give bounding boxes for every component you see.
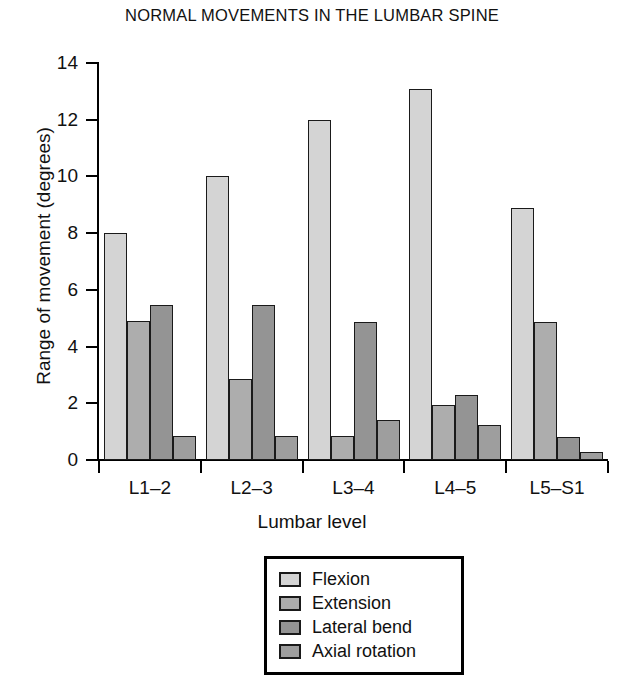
legend-swatch-axial-rotation	[279, 644, 301, 659]
legend-swatch-lateral-bend	[279, 620, 301, 635]
bar-axial-rotation-l4-5	[478, 425, 501, 460]
x-axis-tick	[607, 461, 609, 473]
y-axis-tick	[86, 402, 97, 404]
y-axis-tick-label-wrap: 14	[42, 53, 78, 72]
bar-flexion-l5-s1	[511, 208, 534, 460]
bar-flexion-l1-2	[104, 233, 127, 460]
bar-axial-rotation-l2-3	[275, 436, 298, 460]
x-axis-title: Lumbar level	[0, 511, 624, 533]
x-axis-tick-label: L5–S1	[497, 477, 617, 499]
legend-item-extension[interactable]: Extension	[279, 591, 451, 615]
bar-lateral-bend-l2-3	[252, 305, 275, 460]
y-axis-tick	[86, 459, 97, 461]
bar-flexion-l2-3	[206, 176, 229, 460]
bar-axial-rotation-l3-4	[377, 420, 400, 460]
bar-lateral-bend-l5-s1	[557, 437, 580, 460]
bar-flexion-l4-5	[409, 89, 432, 460]
chart-title: NORMAL MOVEMENTS IN THE LUMBAR SPINE	[0, 6, 624, 25]
bar-extension-l1-2	[127, 321, 150, 460]
legend-item-label: Axial rotation	[312, 642, 416, 660]
x-axis-tick	[98, 461, 100, 473]
chart-legend: FlexionExtensionLateral bendAxial rotati…	[264, 556, 464, 675]
y-axis-tick	[86, 119, 97, 121]
bar-flexion-l3-4	[308, 120, 331, 460]
bar-extension-l4-5	[432, 405, 455, 460]
bar-lateral-bend-l4-5	[455, 395, 478, 460]
x-axis-tick	[505, 461, 507, 473]
legend-item-lateral-bend[interactable]: Lateral bend	[279, 615, 451, 639]
bar-axial-rotation-l5-s1	[580, 452, 603, 461]
bar-extension-l2-3	[229, 379, 252, 460]
y-axis-tick	[86, 232, 97, 234]
legend-item-axial-rotation[interactable]: Axial rotation	[279, 639, 451, 663]
y-axis-tick	[86, 289, 97, 291]
y-axis-tick	[86, 175, 97, 177]
y-axis-tick	[86, 346, 97, 348]
bar-extension-l5-s1	[534, 322, 557, 460]
legend-swatch-extension	[279, 596, 301, 611]
x-axis-tick	[200, 461, 202, 473]
bar-axial-rotation-l1-2	[173, 436, 196, 460]
legend-item-label: Lateral bend	[312, 618, 412, 636]
legend-item-label: Extension	[312, 594, 391, 612]
y-axis-tick-label: 0	[42, 450, 78, 469]
legend-swatch-flexion	[279, 572, 301, 587]
y-axis-tick-label-wrap: 0	[42, 450, 78, 469]
x-axis-tick	[403, 461, 405, 473]
y-axis-tick	[86, 62, 97, 64]
legend-item-label: Flexion	[312, 570, 370, 588]
y-axis-tick-label: 14	[42, 53, 78, 72]
bar-lateral-bend-l1-2	[150, 305, 173, 460]
y-axis-title: Range of movement (degrees)	[33, 91, 55, 421]
bar-lateral-bend-l3-4	[354, 322, 377, 460]
bar-extension-l3-4	[331, 436, 354, 460]
legend-item-flexion[interactable]: Flexion	[279, 567, 451, 591]
plot-area	[99, 63, 608, 460]
x-axis-tick	[302, 461, 304, 473]
